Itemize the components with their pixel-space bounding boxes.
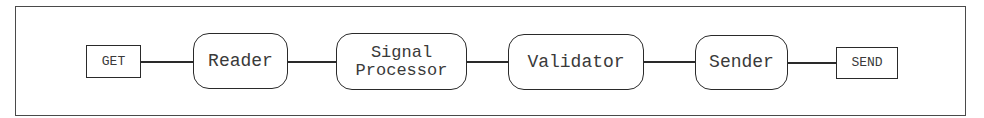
node-signal-processor-line2: Processor xyxy=(356,62,448,80)
node-send: SEND xyxy=(836,47,898,79)
node-validator: Validator xyxy=(508,34,644,90)
node-get-label: GET xyxy=(102,55,125,69)
edge-validator-sender xyxy=(643,61,695,63)
node-reader-label: Reader xyxy=(208,52,273,71)
node-send-label: SEND xyxy=(851,56,882,70)
node-sender: Sender xyxy=(695,35,788,90)
node-get: GET xyxy=(86,45,141,78)
node-signal-processor-line1: Signal xyxy=(371,44,432,62)
edge-reader-signal-processor xyxy=(287,61,336,63)
edge-sender-send xyxy=(787,62,836,64)
node-signal-processor: Signal Processor xyxy=(336,33,467,90)
node-reader: Reader xyxy=(193,33,288,89)
node-sender-label: Sender xyxy=(709,53,774,72)
edge-signal-processor-validator xyxy=(466,61,508,63)
edge-get-reader xyxy=(140,61,193,63)
node-validator-label: Validator xyxy=(527,53,624,72)
